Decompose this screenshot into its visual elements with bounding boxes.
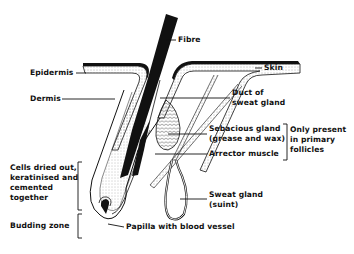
label-primary-line2: in primary bbox=[290, 135, 335, 145]
label-cells-line1: Cells dried out, bbox=[10, 163, 77, 173]
label-papilla: Papilla with blood vessel bbox=[126, 222, 235, 232]
label-primary-line3: follicles bbox=[290, 145, 324, 155]
label-dermis: Dermis bbox=[30, 94, 61, 104]
label-cells-line4: together bbox=[10, 193, 48, 203]
label-cells-line2: keratinised and bbox=[10, 173, 78, 183]
label-sebaceous-line2: (grease and wax) bbox=[209, 134, 285, 144]
label-sweat-line2: (suint) bbox=[209, 200, 238, 210]
label-duct-line2: sweat gland bbox=[232, 98, 285, 108]
label-duct-line1: Duct of bbox=[232, 88, 264, 98]
label-epidermis: Epidermis bbox=[30, 68, 74, 78]
label-cells-line3: cemented bbox=[10, 183, 53, 193]
label-fibre: Fibre bbox=[178, 35, 201, 45]
label-skin: Skin bbox=[264, 63, 283, 73]
label-primary-line1: Only present bbox=[290, 125, 346, 135]
label-budding-zone: Budding zone bbox=[10, 221, 70, 231]
label-sweat-line1: Sweat gland bbox=[209, 190, 263, 200]
sebaceous-gland bbox=[156, 100, 180, 150]
label-sebaceous-line1: Sebacious gland bbox=[209, 124, 281, 134]
label-arrector: Arrector muscle bbox=[209, 149, 279, 159]
